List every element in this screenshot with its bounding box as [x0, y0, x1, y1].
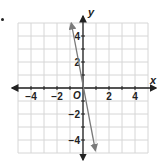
- coordinate-plane: −4−22442−2−4 x y O: [0, 0, 161, 166]
- x-tick-label: 2: [106, 91, 112, 102]
- y-tick-label: 4: [74, 31, 80, 42]
- y-axis-label: y: [87, 6, 95, 18]
- x-tick-label: 4: [132, 91, 138, 102]
- x-tick-label: −2: [51, 91, 63, 102]
- y-tick-label: −2: [69, 109, 81, 120]
- line-segment: [83, 87, 95, 151]
- origin-label: O: [73, 90, 81, 101]
- x-tick-label: −4: [25, 91, 37, 102]
- y-tick-label: −4: [69, 135, 81, 146]
- x-axis-label: x: [149, 74, 157, 86]
